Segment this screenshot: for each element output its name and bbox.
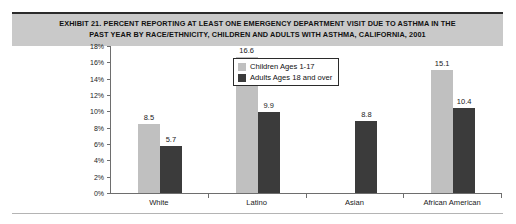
bar-value-label: 10.4 [457,97,472,106]
bar-children[interactable]: 8.5 [138,124,160,193]
bar-value-label: 9.9 [263,101,273,110]
chart-container: 18%16%14%12%10%8%6%4%2%0% 8.55.716.69.98… [0,46,516,211]
y-axis-tick-label: 2% [70,173,104,180]
bar-group: 15.110.4 [404,46,502,193]
bar-group: 8.55.7 [111,46,209,193]
bar-value-label: 5.7 [166,135,176,144]
x-axis-category-label: Latino [246,198,267,207]
legend-swatch-adults [238,74,246,82]
y-axis-tick-label: 12% [70,92,104,99]
y-axis-tick-label: 0% [70,190,104,197]
legend-swatch-children [238,63,246,71]
bar-children[interactable]: 15.1 [431,70,453,193]
legend-item-label: Adults Ages 18 and over [250,73,332,82]
bar-adults[interactable]: 9.9 [258,112,280,193]
y-axis-tick-label: 10% [70,108,104,115]
page-title: EXHIBIT 21. PERCENT REPORTING AT LEAST O… [43,19,471,40]
x-axis-category-labels: WhiteLatinoAsianAfrican American [110,193,502,211]
bar-adults[interactable]: 8.8 [355,121,377,193]
y-axis-tick-label: 8% [70,124,104,131]
legend-item-label: Children Ages 1-17 [250,62,315,71]
bar-adults[interactable]: 5.7 [160,146,182,193]
x-axis-tick-mark [306,193,307,198]
x-axis-category-label: Asian [345,198,364,207]
legend-item[interactable]: Adults Ages 18 and over [238,73,332,82]
bar-value-label: 8.8 [361,110,371,119]
x-axis-category-label: African American [423,198,480,207]
legend-item[interactable]: Children Ages 1-17 [238,62,332,71]
y-axis-tick-label: 18% [70,43,104,50]
x-axis-category-label: White [149,198,168,207]
bottom-divider [12,213,503,214]
bar-value-label: 16.6 [239,46,254,55]
x-axis-tick-mark [403,193,404,198]
y-axis-tick-label: 4% [70,157,104,164]
x-axis-tick-mark [501,193,502,198]
y-axis-tick-label: 6% [70,141,104,148]
y-axis-tick-label: 14% [70,75,104,82]
bar-value-label: 15.1 [435,59,450,68]
y-axis-tick-labels: 18%16%14%12%10%8%6%4%2%0% [66,46,104,193]
x-axis-tick-mark [208,193,209,198]
y-axis-tick-label: 16% [70,59,104,66]
exhibit-title-band: EXHIBIT 21. PERCENT REPORTING AT LEAST O… [12,12,503,46]
bar-adults[interactable]: 10.4 [453,108,475,193]
bar-value-label: 8.5 [144,113,154,122]
chart-legend: Children Ages 1-17Adults Ages 18 and ove… [233,58,339,86]
